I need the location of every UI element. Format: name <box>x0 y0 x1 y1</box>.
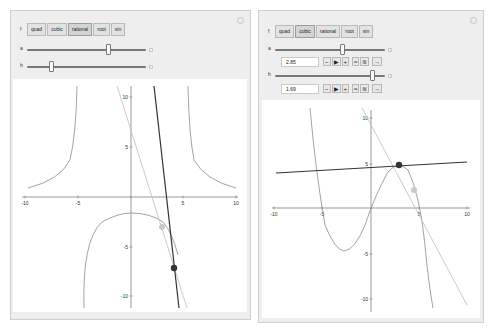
curve-right-branch <box>188 86 236 188</box>
y-tick-label: -5 <box>364 251 369 257</box>
gear-icon[interactable] <box>237 17 244 24</box>
tangent-point[interactable] <box>171 265 177 271</box>
increment-button[interactable]: + <box>342 84 350 93</box>
play-button[interactable]: ▶ <box>332 84 341 93</box>
secant-point[interactable] <box>159 224 165 230</box>
y-tick-label: 10 <box>122 94 128 100</box>
tab-sin[interactable]: sin <box>111 23 125 36</box>
secant-line <box>362 108 467 305</box>
slider-h-expand-icon[interactable] <box>388 74 392 78</box>
x-tick-label: -5 <box>76 200 81 206</box>
direction-button[interactable]: → <box>372 84 382 93</box>
slider-a-expand-icon[interactable] <box>149 48 153 52</box>
left-plot-svg: -10 -5 5 10 10 5 -5 -10 <box>13 79 247 312</box>
slower-button[interactable]: ≋ <box>360 84 369 93</box>
decrement-button[interactable]: − <box>323 84 331 93</box>
x-tick-label: -10 <box>21 200 28 206</box>
x-tick-label: -10 <box>270 211 277 217</box>
y-tick-label: 5 <box>365 161 368 167</box>
tab-quad[interactable]: quad <box>27 23 46 36</box>
x-tick-label: 5 <box>182 200 185 206</box>
slider-h-expand-icon[interactable] <box>149 65 153 69</box>
slider-a-track[interactable] <box>275 49 385 51</box>
slider-h-track[interactable] <box>27 66 146 68</box>
x-tick-label: 10 <box>233 200 239 206</box>
right-plot-svg: -10 -5 5 10 10 5 -5 -10 <box>262 100 480 318</box>
increment-button[interactable]: + <box>342 57 350 66</box>
faster-button[interactable]: ≈ <box>352 57 359 66</box>
slider-a-expand-icon[interactable] <box>388 48 392 52</box>
secant-point[interactable] <box>411 187 417 193</box>
tab-cubic[interactable]: cubic <box>295 25 315 38</box>
tab-sin[interactable]: sin <box>359 25 373 38</box>
tab-quad[interactable]: quad <box>275 25 294 38</box>
x-tick-label: 10 <box>464 211 470 217</box>
y-tick-label: 5 <box>125 144 128 150</box>
function-label: f <box>268 28 269 34</box>
tab-cubic[interactable]: cubic <box>47 23 67 36</box>
right-plot: -10 -5 5 10 10 5 -5 -10 <box>262 100 480 318</box>
y-tick-label: -10 <box>121 293 128 299</box>
function-label: f <box>20 26 21 32</box>
a-value-field[interactable]: 2.85 <box>281 57 319 67</box>
left-plot: -10 -5 5 10 10 5 -5 -10 <box>13 79 247 312</box>
decrement-button[interactable]: − <box>323 57 331 66</box>
slider-a-thumb[interactable] <box>340 44 345 55</box>
curve-left-branch <box>28 86 77 188</box>
slider-h-label: h <box>20 62 23 68</box>
slider-a-track[interactable] <box>27 49 146 51</box>
faster-button[interactable]: ≈ <box>352 84 359 93</box>
tab-root[interactable]: root <box>341 25 358 38</box>
y-tick-label: -5 <box>124 244 129 250</box>
function-tabs: quad cubic rational root sin <box>27 23 126 36</box>
slider-h-track[interactable] <box>275 75 385 77</box>
tangent-line <box>276 162 467 173</box>
y-tick-label: -10 <box>361 296 368 302</box>
slider-a-label: a <box>268 45 271 51</box>
slider-a-label: a <box>20 45 23 51</box>
h-value-field[interactable]: 1.69 <box>281 84 319 94</box>
slider-h-thumb[interactable] <box>370 70 375 81</box>
function-tabs: quad cubic rational root sin <box>275 25 374 38</box>
h-animator-controls: − ▶ + ≈ ≋ → <box>323 84 383 93</box>
direction-button[interactable]: → <box>372 57 382 66</box>
tab-rational[interactable]: rational <box>68 23 92 36</box>
a-animator-controls: − ▶ + ≈ ≋ → <box>323 57 383 66</box>
play-button[interactable]: ▶ <box>332 57 341 66</box>
tab-root[interactable]: root <box>93 23 110 36</box>
slider-h-label: h <box>268 71 271 77</box>
tangent-point[interactable] <box>396 162 402 168</box>
tab-rational[interactable]: rational <box>316 25 340 38</box>
gear-icon[interactable] <box>470 17 477 24</box>
slider-a-thumb[interactable] <box>106 44 111 55</box>
slower-button[interactable]: ≋ <box>360 57 369 66</box>
slider-h-thumb[interactable] <box>49 61 54 72</box>
